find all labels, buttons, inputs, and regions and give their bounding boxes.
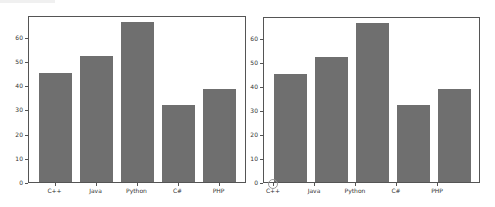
x-tick-label: PHP: [417, 187, 457, 194]
y-tick: [260, 111, 263, 112]
plot-area: [263, 17, 480, 183]
x-tick: [314, 183, 315, 186]
x-tick: [437, 183, 438, 186]
y-tick-label: 50: [244, 60, 258, 66]
y-tick-label: 60: [244, 36, 258, 42]
y-tick-label: 30: [244, 108, 258, 114]
y-tick: [260, 63, 263, 64]
bar-java: [315, 57, 348, 182]
y-tick-label: 10: [244, 156, 258, 162]
x-tick: [396, 183, 397, 186]
y-tick-label: 0: [244, 180, 258, 186]
x-tick-label: Python: [335, 187, 375, 194]
bar-chart-right: C++JavaPythonC#PHP0102030405060: [0, 0, 495, 207]
bar-php: [438, 89, 471, 182]
y-tick: [260, 183, 263, 184]
y-tick: [260, 135, 263, 136]
bar-python: [356, 23, 389, 182]
bar-csharp: [397, 105, 430, 182]
bar-cpp: [274, 74, 307, 182]
y-tick: [260, 39, 263, 40]
y-tick-label: 20: [244, 132, 258, 138]
x-tick-label: Java: [294, 187, 334, 194]
x-tick: [355, 183, 356, 186]
y-tick: [260, 159, 263, 160]
y-tick-label: 40: [244, 84, 258, 90]
mouse-cursor-indicator: [268, 179, 278, 189]
y-tick: [260, 87, 263, 88]
x-tick-label: C#: [376, 187, 416, 194]
